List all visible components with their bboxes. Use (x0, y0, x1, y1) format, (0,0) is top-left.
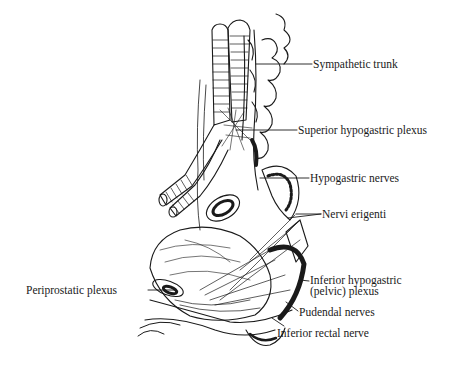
label-pudendal-nerves: Pudendal nerves (299, 306, 375, 318)
label-nervi-erigenti: Nervi erigenti (322, 208, 386, 220)
label-sympathetic-trunk: Sympathetic trunk (313, 58, 398, 70)
label-inferior-rectal-nerve: Inferior rectal nerve (277, 327, 369, 339)
label-hypogastric-nerves: Hypogastric nerves (310, 172, 399, 184)
label-inferior-hypogastric-plexus: Inferior hypogastric (pelvic) plexus (310, 275, 402, 297)
anatomical-illustration (0, 0, 461, 369)
label-inferior-hypogastric-line2: (pelvic) plexus (310, 286, 402, 297)
label-periprostatic-plexus: Periprostatic plexus (26, 284, 117, 296)
label-superior-hypogastric-plexus: Superior hypogastric plexus (298, 124, 427, 136)
pelvic-nerves-diagram: Sympathetic trunk Superior hypogastric p… (0, 0, 461, 369)
